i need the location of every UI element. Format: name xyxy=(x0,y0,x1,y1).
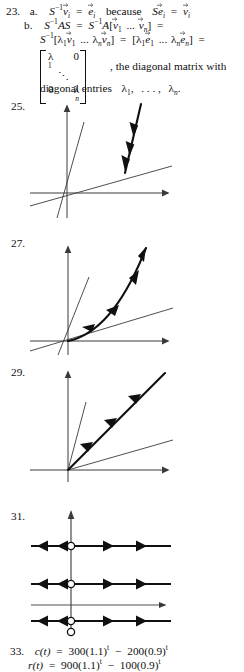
token-v1: v xyxy=(113,19,118,31)
token-e1: e xyxy=(145,33,150,45)
solution-33-line-2: r(t) = 900(1.1)t − 100(0.9)t xyxy=(28,658,161,672)
figure-31 xyxy=(28,505,218,633)
token-vn: v xyxy=(139,19,144,31)
equilibrium-circle-4 xyxy=(67,628,74,635)
token-r-term2: 100(0.9) xyxy=(120,659,159,671)
token-c-term1-exp: t xyxy=(107,643,109,652)
vector-e-i: e xyxy=(88,6,93,18)
matrix-entry-zero-topright: 0 xyxy=(74,51,80,69)
figure-29 xyxy=(28,360,208,482)
token-equals-2: = xyxy=(171,5,177,17)
trajectory-25 xyxy=(121,104,141,173)
token-S3-exp: −1 xyxy=(50,17,58,26)
y-axis-25 xyxy=(64,105,71,219)
x-axis-31 xyxy=(31,602,167,608)
matrix-entry-lambda1: λ1 xyxy=(48,51,54,69)
token-v2-sub: i xyxy=(188,11,190,20)
problem-number-29: 29. xyxy=(11,366,25,378)
eigenline-steep-27 xyxy=(58,277,89,355)
token-S-exp: −1 xyxy=(55,3,63,12)
token-c-minus: − xyxy=(115,645,121,657)
problem-number-33: 33. xyxy=(10,645,24,657)
vector-v-n-b: v xyxy=(102,34,107,46)
token-because: because xyxy=(106,5,142,17)
x-axis-25 xyxy=(30,190,170,197)
trajectory-line-1-31 xyxy=(31,541,171,552)
figure-31-canvas xyxy=(28,505,218,633)
token-equals-1: = xyxy=(76,5,82,17)
figure-27-canvas xyxy=(28,233,208,355)
problem-number-23: 23. xyxy=(6,5,20,17)
eigenline-steep-25 xyxy=(57,122,84,218)
token-comma: , xyxy=(131,82,134,94)
equilibrium-circle-1 xyxy=(67,542,74,549)
token-r-minus: − xyxy=(108,659,114,671)
token-c-arg: (t) xyxy=(40,645,51,657)
token-diagonal-entries: diagonal entries xyxy=(40,82,112,94)
token-bracket-close-1: ] xyxy=(147,19,151,31)
token-ellipsis-2: ... xyxy=(80,33,88,45)
token-ellipsis-tail: . . . , xyxy=(141,82,161,94)
problem-number-31: 31. xyxy=(11,510,25,522)
token-equals-4: = xyxy=(157,19,163,31)
figure-29-canvas xyxy=(28,360,208,482)
equilibrium-circle-2 xyxy=(67,580,74,587)
token-equals-6: = xyxy=(199,33,205,45)
token-eq-r: = xyxy=(49,659,55,671)
part-label-a: a. xyxy=(30,5,38,17)
vector-e-i-2: e xyxy=(158,6,163,18)
trajectory-29 xyxy=(68,373,165,470)
eigenline-shallow-27 xyxy=(30,308,173,351)
token-AS: AS xyxy=(58,19,71,31)
token-r-term1: 900(1.1) xyxy=(61,659,100,671)
eigenline-shallow-25 xyxy=(30,166,172,206)
token-c-term2: 200(0.9) xyxy=(127,645,166,657)
vector-e-n: e xyxy=(180,34,185,46)
token-v-2: v xyxy=(183,5,188,17)
figure-25 xyxy=(28,100,208,218)
trajectory-27 xyxy=(68,247,146,341)
problem-number-25: 25. xyxy=(11,100,25,112)
token-c-term1: 300(1.1) xyxy=(69,645,108,657)
x-axis-27 xyxy=(30,338,170,345)
token-r-term1-exp: t xyxy=(100,657,102,666)
token-bracket-close-2: ] xyxy=(110,33,114,45)
token-ellipsis-1: ... xyxy=(126,19,134,31)
solution-33-line-1: 33. c(t) = 300(1.1)t − 200(0.9)t xyxy=(10,644,168,658)
trajectory-line-3-31 xyxy=(31,616,171,627)
token-en: e xyxy=(180,33,185,45)
figure-27 xyxy=(28,233,208,355)
trajectory-line-2-31 xyxy=(31,579,171,590)
token-e-2: e xyxy=(158,5,163,17)
x-axis-29 xyxy=(30,467,170,474)
matrix-lambda-1-sub: 1 xyxy=(48,62,54,69)
equilibrium-circle-3 xyxy=(67,617,74,624)
problem-number-27: 27. xyxy=(11,237,25,249)
vector-v-i: v xyxy=(63,6,68,18)
token-eq-c: = xyxy=(56,645,62,657)
token-v: v xyxy=(63,5,68,17)
token-r-term2-exp: t xyxy=(158,657,160,666)
vector-e-1: e xyxy=(145,34,150,46)
token-S5-exp: −1 xyxy=(46,31,54,40)
token-e1-sub: 1 xyxy=(150,39,154,48)
vector-v-1-b: v xyxy=(67,34,72,46)
token-ellipsis-3: ... xyxy=(159,33,167,45)
token-equals-5: = xyxy=(120,33,126,45)
figure-25-canvas xyxy=(28,100,208,218)
matrix-tail-text: , the diagonal matrix with xyxy=(110,60,226,72)
vector-v-1: v xyxy=(113,20,118,32)
vector-v-n: v xyxy=(139,20,144,32)
token-equals-3: = xyxy=(76,19,82,31)
y-axis-31 xyxy=(68,510,75,633)
token-r-arg: (t) xyxy=(32,659,43,671)
token-bracket-close-3: ] xyxy=(189,33,193,45)
token-vn-b: v xyxy=(102,33,107,45)
solution-23-line-final: diagonal entries λ1, . . . , λn. xyxy=(40,83,181,97)
token-v1-b: v xyxy=(67,33,72,45)
token-period: . xyxy=(178,82,181,94)
part-label-b: b. xyxy=(24,19,32,31)
token-c-term2-exp: t xyxy=(166,643,168,652)
vector-v-i-2: v xyxy=(183,6,188,18)
